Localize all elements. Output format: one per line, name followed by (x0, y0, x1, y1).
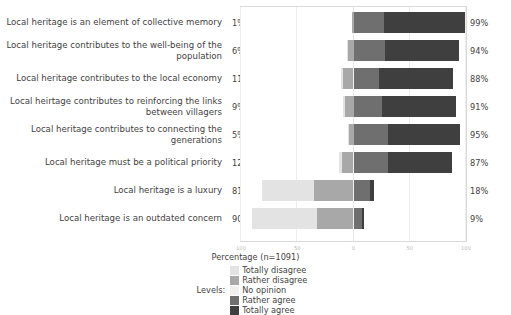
bar-segment (388, 124, 460, 145)
legend-swatch-icon (230, 306, 239, 315)
legend-label: Totally disagree (242, 265, 306, 275)
bar-segment (384, 12, 465, 33)
legend-item[interactable]: Totally disagree (230, 265, 307, 275)
bar-segment (354, 152, 388, 173)
x-tick-label: 100 (453, 245, 479, 251)
x-tick-label: 100 (228, 245, 254, 251)
legend-swatch-icon (230, 286, 239, 295)
legend-item[interactable]: No opinion (230, 285, 307, 295)
bar-row (0, 152, 511, 173)
bar-segment (252, 208, 317, 229)
legend: Levels: Totally disagreeRather disagreeN… (0, 265, 511, 315)
legend-swatch-icon (230, 266, 239, 275)
legend-label: Rather disagree (242, 275, 307, 285)
legend-swatch-icon (230, 296, 239, 305)
bar-row (0, 180, 511, 201)
bar-segment (354, 68, 379, 89)
bar-row (0, 68, 511, 89)
legend-item[interactable]: Totally agree (230, 305, 307, 315)
bar-segment (343, 68, 353, 89)
legend-items: Totally disagreeRather disagreeNo opinio… (230, 265, 314, 315)
bar-segment (379, 68, 453, 89)
bar-row (0, 208, 511, 229)
bar-row (0, 124, 511, 145)
bar-segment (354, 96, 382, 117)
bar-row (0, 96, 511, 117)
legend-title: Levels: (197, 285, 226, 295)
legend-label: Totally agree (242, 305, 294, 315)
bar-segment (314, 180, 353, 201)
bar-segment (354, 124, 389, 145)
bar-segment (388, 152, 452, 173)
agree-total-labels: 99%94%88%91%95%87%18%9% (470, 0, 500, 242)
bar-segment (370, 180, 375, 201)
bar-segment (354, 208, 362, 229)
bar-segment (262, 180, 314, 201)
legend-label: Rather agree (242, 295, 295, 305)
bar-segment (382, 96, 456, 117)
legend-swatch-icon (230, 276, 239, 285)
bar-segment (354, 40, 386, 61)
bar-segment (354, 12, 384, 33)
legend-item[interactable]: Rather disagree (230, 275, 307, 285)
legend-label: No opinion (242, 285, 286, 295)
x-tick-label: 50 (284, 245, 310, 251)
x-tick-label: 0 (341, 245, 367, 251)
bar-segment (385, 40, 459, 61)
legend-item[interactable]: Rather agree (230, 295, 307, 305)
x-tick-label: 50 (397, 245, 423, 251)
bar-segment (342, 152, 353, 173)
bar-segment (354, 180, 370, 201)
bar-segment (362, 208, 364, 229)
category-labels: Local heritage is an element of collecti… (0, 0, 228, 242)
bar-row (0, 12, 511, 33)
x-axis-label: Percentage (n=1091) (0, 252, 511, 262)
bar-segment (317, 208, 353, 229)
bar-row (0, 40, 511, 61)
bar-segment (345, 96, 354, 117)
